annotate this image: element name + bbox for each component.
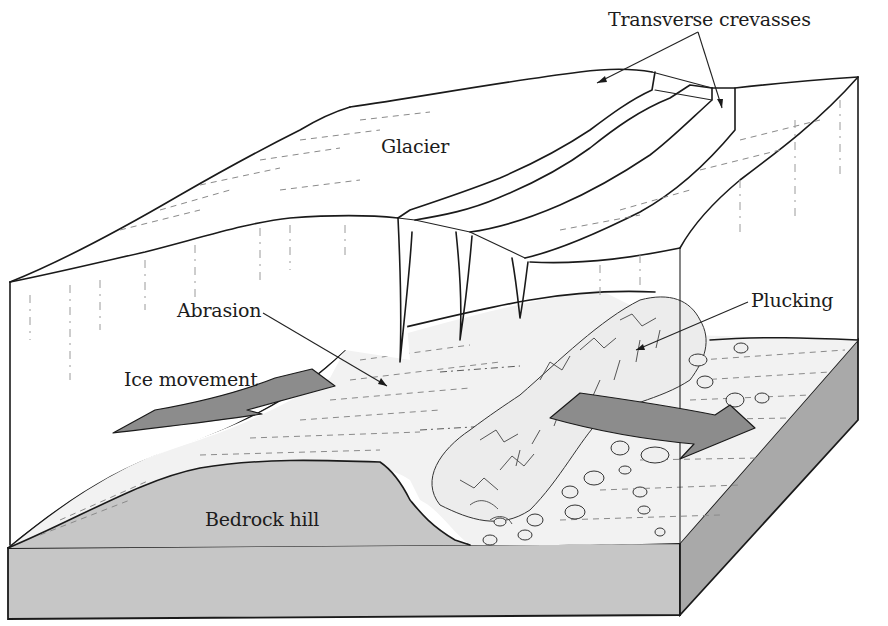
label-bedrock-hill: Bedrock hill	[205, 510, 319, 529]
label-abrasion: Abrasion	[177, 301, 261, 320]
label-plucking: Plucking	[751, 291, 833, 310]
glacier-block-diagram: Transverse crevasses Glacier Abrasion Pl…	[0, 0, 888, 626]
label-ice-movement: Ice movement	[124, 370, 258, 389]
label-transverse-crevasses: Transverse crevasses	[608, 10, 811, 29]
bedrock-front-face	[8, 543, 680, 619]
label-glacier: Glacier	[381, 137, 449, 156]
diagram-canvas	[0, 0, 888, 626]
